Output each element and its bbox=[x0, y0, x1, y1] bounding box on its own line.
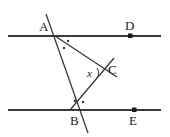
point-label-c: C bbox=[108, 63, 117, 76]
angle-dot-a-upper-icon bbox=[67, 40, 69, 42]
angle-dot-b-right-icon bbox=[82, 101, 85, 104]
point-dot-e bbox=[132, 108, 137, 113]
point-label-b: B bbox=[70, 114, 79, 127]
point-label-e: E bbox=[129, 114, 137, 127]
angle-dot-a-lower-icon bbox=[63, 47, 65, 49]
angle-label-x: x bbox=[87, 68, 92, 79]
angle-dot-b-left-icon bbox=[74, 100, 77, 103]
geometry-canvas bbox=[0, 0, 170, 137]
point-label-d: D bbox=[125, 19, 134, 32]
geometry-figure: A B C D E x bbox=[0, 0, 170, 137]
point-label-a: A bbox=[39, 20, 48, 33]
transversal-ab bbox=[46, 14, 88, 133]
point-dot-d bbox=[128, 34, 133, 39]
